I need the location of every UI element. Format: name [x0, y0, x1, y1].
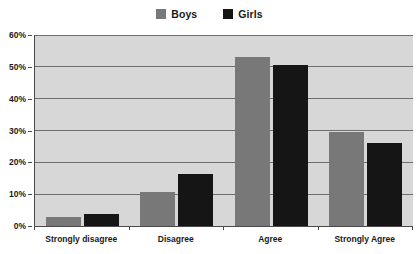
gridline: [35, 35, 413, 36]
bar-girls-strongly-agree[interactable]: [367, 143, 402, 226]
legend-label-girls: Girls: [238, 9, 262, 19]
bar-boys-agree[interactable]: [235, 57, 270, 226]
y-tick-mark: [28, 226, 32, 227]
gridline: [35, 130, 413, 131]
plot-area: [34, 35, 413, 227]
bar-chart: BoysGirls 0%10%20%30%40%50%60% Strongly …: [0, 0, 419, 254]
legend-swatch-boys: [156, 9, 166, 19]
x-tick-mark: [129, 226, 130, 230]
y-tick-label: 0%: [0, 221, 26, 231]
y-axis: 0%10%20%30%40%50%60%: [0, 35, 32, 226]
bar-boys-disagree[interactable]: [140, 192, 175, 226]
gridline: [35, 98, 413, 99]
bar-girls-disagree[interactable]: [178, 174, 213, 226]
x-tick-label: Strongly disagree: [45, 234, 117, 244]
bar-boys-strongly-agree[interactable]: [329, 132, 364, 226]
legend-swatch-girls: [223, 9, 233, 19]
y-tick-label: 30%: [0, 126, 26, 136]
y-tick-label: 10%: [0, 189, 26, 199]
y-tick-mark: [28, 99, 32, 100]
y-tick-mark: [28, 194, 32, 195]
y-tick-label: 20%: [0, 157, 26, 167]
x-tick-mark: [223, 226, 224, 230]
legend-label-boys: Boys: [171, 9, 197, 19]
bar-boys-strongly-disagree[interactable]: [46, 217, 81, 226]
x-tick-mark: [34, 226, 35, 230]
legend-entry-girls[interactable]: Girls: [223, 9, 262, 19]
y-tick-mark: [28, 131, 32, 132]
x-tick-label: Disagree: [158, 234, 194, 244]
y-tick-label: 60%: [0, 30, 26, 40]
x-tick-mark: [318, 226, 319, 230]
y-tick-label: 50%: [0, 62, 26, 72]
chart-legend: BoysGirls: [0, 6, 419, 22]
y-tick-label: 40%: [0, 94, 26, 104]
x-tick-label: Agree: [258, 234, 282, 244]
gridline: [35, 66, 413, 67]
bar-girls-agree[interactable]: [273, 65, 308, 226]
y-tick-mark: [28, 162, 32, 163]
legend-entry-boys[interactable]: Boys: [156, 9, 197, 19]
x-axis: Strongly disagreeDisagreeAgreeStrongly A…: [34, 226, 413, 252]
bar-girls-strongly-disagree[interactable]: [84, 214, 119, 226]
x-tick-mark: [412, 226, 413, 230]
x-tick-label: Strongly Agree: [334, 234, 395, 244]
y-tick-mark: [28, 67, 32, 68]
y-tick-mark: [28, 35, 32, 36]
